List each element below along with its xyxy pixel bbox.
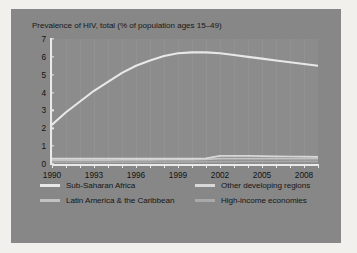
series-line xyxy=(52,52,318,124)
chart-figure: Prevalence of HIV, total (% of populatio… xyxy=(11,9,341,243)
y-axis-tick-label: 6 xyxy=(30,52,46,62)
grid-line xyxy=(276,39,277,164)
grid-line xyxy=(150,39,151,164)
grid-line xyxy=(122,39,123,164)
y-axis-tick-mark xyxy=(50,92,54,93)
legend-item[interactable]: High-income economies xyxy=(195,196,307,205)
grid-line xyxy=(178,39,179,164)
y-axis-tick-label: 0 xyxy=(30,159,46,169)
x-axis-tick-mark xyxy=(150,164,151,168)
x-axis-tick-mark xyxy=(206,164,207,168)
legend-swatch-icon xyxy=(40,184,60,187)
y-axis-tick-label: 4 xyxy=(30,88,46,98)
x-axis-tick-mark xyxy=(164,164,165,168)
grid-line xyxy=(206,39,207,164)
x-axis-tick-mark xyxy=(66,164,67,168)
grid-line xyxy=(248,39,249,164)
grid-line xyxy=(164,39,165,164)
x-axis-line xyxy=(52,164,319,166)
x-axis-tick-mark xyxy=(304,164,305,168)
x-axis-tick-mark xyxy=(234,164,235,168)
grid-line xyxy=(220,39,221,164)
x-axis-tick-mark xyxy=(136,164,137,168)
grid-line xyxy=(192,39,193,164)
grid-line xyxy=(262,39,263,164)
x-axis-tick-mark xyxy=(318,164,319,168)
legend-label: Latin America & the Caribbean xyxy=(66,196,174,205)
grid-line xyxy=(66,39,67,164)
legend-item[interactable]: Latin America & the Caribbean xyxy=(40,196,174,205)
legend-swatch-icon xyxy=(195,199,215,202)
x-axis-tick-mark xyxy=(262,164,263,168)
chart-legend: Sub-Saharan AfricaOther developing regio… xyxy=(32,181,327,213)
legend-item[interactable]: Other developing regions xyxy=(195,181,310,190)
y-axis-tick-mark xyxy=(50,56,54,57)
x-axis-tick-mark xyxy=(52,164,53,168)
legend-label: Sub-Saharan Africa xyxy=(66,181,135,190)
y-axis-labels: 01234567 xyxy=(32,39,46,164)
x-axis-tick-mark xyxy=(178,164,179,168)
legend-item[interactable]: Sub-Saharan Africa xyxy=(40,181,135,190)
grid-line xyxy=(136,39,137,164)
x-axis-tick-label: 1993 xyxy=(85,170,103,180)
y-axis-tick-mark xyxy=(50,38,54,39)
legend-label: Other developing regions xyxy=(221,181,310,190)
x-axis-tick-mark xyxy=(192,164,193,168)
x-axis-tick-mark xyxy=(220,164,221,168)
x-axis-tick-mark xyxy=(122,164,123,168)
y-axis-tick-label: 5 xyxy=(30,70,46,80)
y-axis-tick-label: 7 xyxy=(30,34,46,44)
x-axis-tick-mark xyxy=(290,164,291,168)
y-axis-tick-mark xyxy=(50,145,54,146)
y-axis-tick-mark xyxy=(50,74,54,75)
y-axis-tick-mark xyxy=(50,110,54,111)
grid-line xyxy=(80,39,81,164)
legend-swatch-icon xyxy=(40,199,60,202)
x-axis-tick-label: 1999 xyxy=(169,170,187,180)
x-axis-tick-label: 2005 xyxy=(253,170,271,180)
legend-label: High-income economies xyxy=(221,196,307,205)
x-axis-tick-label: 2002 xyxy=(211,170,229,180)
series-lines xyxy=(52,39,318,164)
chart-title: Prevalence of HIV, total (% of populatio… xyxy=(32,21,322,30)
grid-line xyxy=(290,39,291,164)
legend-swatch-icon xyxy=(195,184,215,187)
x-axis-tick-mark xyxy=(80,164,81,168)
x-axis-tick-mark xyxy=(108,164,109,168)
x-axis-tick-label: 1990 xyxy=(43,170,61,180)
x-axis-tick-mark xyxy=(248,164,249,168)
x-axis-tick-label: 1996 xyxy=(127,170,145,180)
x-axis-tick-mark xyxy=(94,164,95,168)
grid-line xyxy=(108,39,109,164)
plot-wrapper: 01234567 1990199319961999200220052008 xyxy=(32,39,322,171)
grid-line xyxy=(234,39,235,164)
y-axis-tick-label: 3 xyxy=(30,105,46,115)
grid-line xyxy=(304,39,305,164)
grid-line xyxy=(94,39,95,164)
plot-area xyxy=(52,39,318,164)
x-axis-tick-mark xyxy=(276,164,277,168)
x-axis-tick-label: 2008 xyxy=(295,170,313,180)
y-axis-tick-mark xyxy=(50,128,54,129)
y-axis-tick-label: 2 xyxy=(30,123,46,133)
series-line xyxy=(52,161,318,162)
y-axis-tick-label: 1 xyxy=(30,141,46,151)
